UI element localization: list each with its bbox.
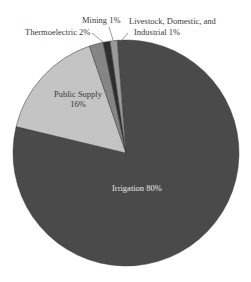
label-public-supply-line2: 16% bbox=[48, 99, 108, 109]
pie-chart bbox=[0, 0, 251, 282]
label-thermoelectric: Thermoelectric 2% bbox=[25, 27, 90, 37]
label-livestock-line2: Industrial 1% bbox=[134, 27, 180, 37]
label-livestock-line1: Livestock, Domestic, and bbox=[129, 16, 216, 26]
label-irrigation: Irrigation 80% bbox=[112, 183, 162, 193]
label-mining: Mining 1% bbox=[82, 15, 121, 25]
leader-mining bbox=[109, 27, 113, 40]
pie-slices bbox=[13, 40, 239, 266]
leader-lines bbox=[92, 27, 128, 42]
label-public-supply-line1: Public Supply bbox=[48, 89, 108, 99]
leader-thermoelectric bbox=[92, 33, 103, 42]
